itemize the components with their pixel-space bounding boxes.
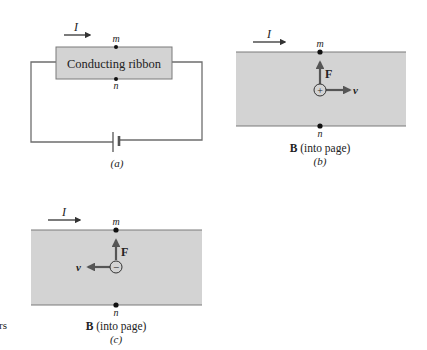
velocity-label: v [353, 84, 358, 96]
force-label: F [121, 245, 128, 259]
point-n-label: n [114, 307, 119, 318]
field-direction: (into page) [93, 320, 146, 333]
point-n-label: n [318, 128, 323, 139]
field-direction: (into page) [297, 142, 350, 155]
point-n-label: n [114, 80, 119, 91]
point-m-dot [317, 49, 322, 54]
force-label: F [325, 67, 332, 81]
point-m-dot [114, 45, 118, 49]
battery-symbol [113, 132, 119, 152]
panel-a: I Conducting ribbon m n (a) [31, 20, 202, 170]
charge-sign: − [113, 261, 119, 273]
caption-a: (a) [111, 157, 124, 170]
caption-b: (b) [314, 155, 327, 168]
margin-text-fragment: rs [0, 319, 7, 331]
current-arrow: I [253, 27, 285, 42]
charge-sign: + [317, 85, 323, 96]
point-m-dot [113, 227, 118, 232]
velocity-label: v [76, 261, 81, 273]
current-arrow: I [64, 20, 90, 35]
field-label: B (into page) [290, 142, 351, 155]
panel-c: I m n F v − B (into page) (c) [31, 205, 202, 346]
panel-b: I m n F v + B (into page) (b) [236, 27, 406, 168]
current-label: I [73, 20, 79, 34]
current-label: I [266, 27, 272, 41]
current-label: I [61, 205, 67, 219]
point-m-label: m [316, 38, 323, 49]
current-arrow: I [48, 205, 80, 220]
hall-effect-diagram: I Conducting ribbon m n (a) I m n [0, 0, 427, 350]
field-label: B (into page) [86, 320, 147, 333]
point-m-label: m [112, 216, 119, 227]
caption-c: (c) [110, 333, 123, 346]
point-m-label: m [112, 33, 119, 44]
ribbon-label: Conducting ribbon [67, 57, 162, 71]
